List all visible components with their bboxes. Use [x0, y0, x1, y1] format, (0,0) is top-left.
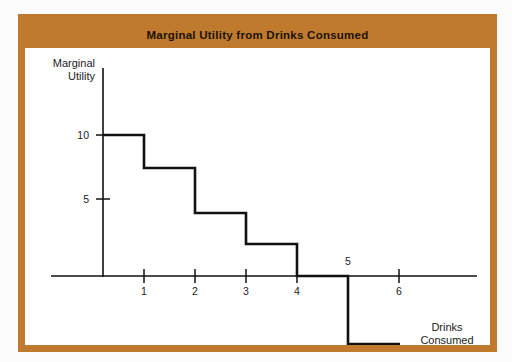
figure-frame: Marginal Utility from Drinks Consumed 10…: [18, 14, 497, 352]
x-tick-label-6: 6: [396, 285, 402, 297]
x-tick-label-5: 5: [345, 255, 351, 267]
x-tick-label-4: 4: [294, 285, 300, 297]
marginal-utility-step-curve: [103, 135, 400, 344]
page-canvas: Marginal Utility from Drinks Consumed 10…: [0, 0, 512, 362]
y-tick-label-10: 10: [77, 129, 89, 141]
x-axis-label-line1: Drinks: [431, 321, 463, 333]
x-tick-label-1: 1: [141, 285, 147, 297]
y-axis-label-line1: Marginal: [53, 57, 95, 69]
y-axis-label-line2: Utility: [68, 70, 95, 82]
x-tick-label-3: 3: [243, 285, 249, 297]
figure-title: Marginal Utility from Drinks Consumed: [146, 29, 368, 41]
x-axis-label-line2: Consumed: [420, 334, 473, 345]
plot-area: 10 5 Marginal Utility 1 2 3 4 5 6: [25, 48, 490, 345]
x-tick-label-2: 2: [192, 285, 198, 297]
figure-title-bar: Marginal Utility from Drinks Consumed: [25, 21, 490, 48]
marginal-utility-chart: 10 5 Marginal Utility 1 2 3 4 5 6: [25, 48, 490, 345]
y-tick-label-5: 5: [83, 193, 89, 205]
